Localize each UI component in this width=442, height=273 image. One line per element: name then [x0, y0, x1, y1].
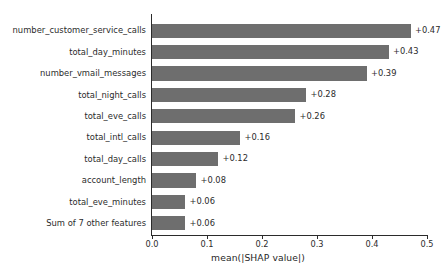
x-axis-tick-label: 0.0 [145, 239, 158, 250]
x-axis-tick-label: 0.1 [200, 239, 213, 250]
bar[interactable] [152, 24, 411, 38]
plot-area: +0.47+0.43+0.39+0.28+0.26+0.16+0.12+0.08… [152, 14, 427, 235]
bar[interactable] [152, 195, 185, 209]
bar[interactable] [152, 152, 218, 166]
y-axis-tick-label: total_intl_calls [0, 131, 146, 143]
bar-value-label: +0.08 [201, 173, 226, 188]
y-axis-tick-label: total_eve_calls [0, 110, 146, 122]
bar-value-label: +0.12 [223, 151, 248, 166]
bar-row: +0.43 [152, 41, 427, 62]
y-axis-tick-label: total_night_calls [0, 89, 146, 101]
x-axis-tick-label: 0.2 [255, 239, 268, 250]
bar-value-label: +0.26 [300, 109, 325, 124]
bar-value-label: +0.16 [245, 130, 270, 145]
bar[interactable] [152, 45, 389, 59]
bar-value-label: +0.39 [371, 66, 396, 81]
bar-row: +0.08 [152, 170, 427, 191]
bar-value-label: +0.28 [311, 87, 336, 102]
y-axis-tick-label: account_length [0, 174, 146, 186]
bar-row: +0.16 [152, 127, 427, 148]
x-axis-title-text: mean(|SHAP value|) [211, 252, 305, 263]
y-axis-tick-label: total_eve_minutes [0, 196, 146, 208]
bar-value-label: +0.06 [190, 194, 215, 209]
x-axis-tick-label: 0.5 [420, 239, 433, 250]
bar[interactable] [152, 66, 367, 80]
bar-row: +0.06 [152, 213, 427, 234]
shap-feature-importance-chart: +0.47+0.43+0.39+0.28+0.26+0.16+0.12+0.08… [0, 0, 442, 273]
bar[interactable] [152, 109, 295, 123]
y-axis-tick-label: number_customer_service_calls [0, 24, 146, 36]
y-axis-tick-label: total_day_minutes [0, 46, 146, 58]
bar[interactable] [152, 88, 306, 102]
bar-row: +0.26 [152, 106, 427, 127]
x-axis-title: mean(|SHAP value|) [0, 252, 442, 263]
x-axis-tick-label: 0.4 [365, 239, 378, 250]
bar[interactable] [152, 173, 196, 187]
bar-row: +0.06 [152, 191, 427, 212]
x-axis-tick-label: 0.3 [310, 239, 323, 250]
bar-row: +0.47 [152, 20, 427, 41]
y-axis-tick-label: total_day_calls [0, 153, 146, 165]
bar-row: +0.39 [152, 63, 427, 84]
bar-value-label: +0.06 [190, 216, 215, 231]
y-axis-tick-label: number_vmail_messages [0, 67, 146, 79]
bar[interactable] [152, 216, 185, 230]
bar-value-label: +0.47 [415, 23, 440, 38]
bar-value-label: +0.43 [393, 44, 418, 59]
bar-row: +0.12 [152, 148, 427, 169]
y-axis-tick-label: Sum of 7 other features [0, 217, 146, 229]
bar-row: +0.28 [152, 84, 427, 105]
bar[interactable] [152, 131, 240, 145]
